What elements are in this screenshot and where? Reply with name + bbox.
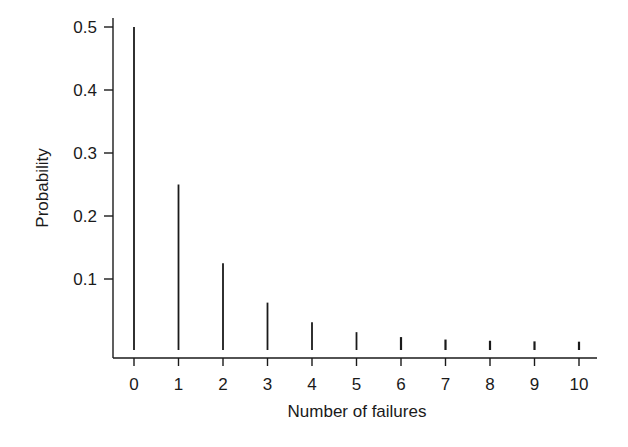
x-ticks: 012345678910 — [129, 358, 588, 394]
y-tick-label: 0.3 — [73, 144, 97, 163]
x-tick-label: 1 — [174, 375, 183, 394]
axes — [113, 18, 597, 358]
x-tick-label: 8 — [485, 375, 494, 394]
x-tick-label: 0 — [129, 375, 138, 394]
y-tick-label: 0.2 — [73, 207, 97, 226]
x-tick-label: 9 — [530, 375, 539, 394]
x-tick-label: 3 — [263, 375, 272, 394]
bars — [134, 27, 579, 350]
y-tick-label: 0.4 — [73, 81, 97, 100]
y-axis-title: Probability — [33, 148, 52, 228]
x-tick-label: 10 — [570, 375, 589, 394]
x-tick-label: 7 — [441, 375, 450, 394]
y-ticks: 0.10.20.30.40.5 — [73, 18, 113, 289]
y-tick-label: 0.5 — [73, 18, 97, 37]
x-tick-label: 4 — [307, 375, 316, 394]
y-tick-label: 0.1 — [73, 270, 97, 289]
x-tick-label: 6 — [396, 375, 405, 394]
x-tick-label: 2 — [218, 375, 227, 394]
x-axis-title: Number of failures — [288, 402, 427, 421]
x-tick-label: 5 — [352, 375, 361, 394]
probability-chart: 0.10.20.30.40.5 012345678910 Number of f… — [0, 0, 628, 447]
